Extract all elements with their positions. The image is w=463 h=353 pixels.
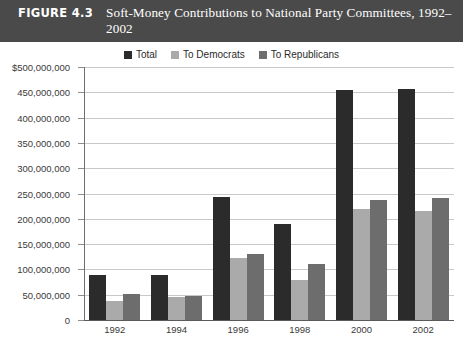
legend-label-to-republicans: To Republicans bbox=[271, 49, 339, 60]
bar-2000-series-2 bbox=[353, 209, 370, 320]
y-axis-tick-label: 450,000,000 bbox=[17, 87, 70, 98]
legend-item-total: Total bbox=[124, 49, 157, 60]
x-axis-tick-label: 1994 bbox=[166, 324, 187, 335]
x-axis-tick-label: 2000 bbox=[351, 324, 372, 335]
bar-1998-series-1 bbox=[274, 224, 291, 320]
legend-swatch-to-republicans bbox=[259, 51, 267, 59]
bar-group-1994 bbox=[151, 67, 202, 320]
y-axis: 050,000,000100,000,000150,000,000200,000… bbox=[0, 62, 78, 353]
bars-layer bbox=[84, 62, 454, 321]
bar-1996-series-2 bbox=[230, 258, 247, 320]
y-axis-tick-label: 400,000,000 bbox=[17, 112, 70, 123]
figure-title-bar: FIGURE 4.3 Soft-Money Contributions to N… bbox=[0, 0, 463, 42]
bar-2002-series-2 bbox=[415, 211, 432, 320]
chart-legend: Total To Democrats To Republicans bbox=[0, 49, 463, 60]
x-axis: 199219941996199820002002 bbox=[84, 324, 454, 344]
bar-2002-series-3 bbox=[432, 198, 449, 320]
bar-1992-series-2 bbox=[106, 301, 123, 320]
y-axis-tick-label: 150,000,000 bbox=[17, 239, 70, 250]
y-axis-tick-label: 50,000,000 bbox=[22, 289, 70, 300]
bar-1998-series-2 bbox=[291, 280, 308, 320]
bar-group-1998 bbox=[274, 67, 325, 320]
bar-1998-series-3 bbox=[308, 264, 325, 320]
y-axis-tick-label: 0 bbox=[65, 315, 70, 326]
y-axis-tick-label: 300,000,000 bbox=[17, 163, 70, 174]
x-axis-tick-label: 1996 bbox=[228, 324, 249, 335]
bar-2000-series-1 bbox=[336, 90, 353, 320]
bar-2002-series-1 bbox=[398, 89, 415, 320]
bar-1994-series-1 bbox=[151, 275, 168, 320]
bar-1992-series-3 bbox=[123, 294, 140, 320]
bar-1996-series-1 bbox=[213, 197, 230, 320]
legend-label-total: Total bbox=[136, 49, 157, 60]
legend-item-to-republicans: To Republicans bbox=[259, 49, 339, 60]
bar-group-1996 bbox=[213, 67, 264, 320]
bar-1994-series-3 bbox=[185, 296, 202, 320]
bar-1992-series-1 bbox=[89, 275, 106, 320]
bar-1996-series-3 bbox=[247, 254, 264, 320]
y-axis-tick-label: 200,000,000 bbox=[17, 213, 70, 224]
legend-label-to-democrats: To Democrats bbox=[183, 49, 245, 60]
legend-swatch-to-democrats bbox=[171, 51, 179, 59]
page-title: Soft-Money Contributions to National Par… bbox=[106, 5, 455, 36]
bar-group-2000 bbox=[336, 67, 387, 320]
x-axis-tick-label: 1998 bbox=[289, 324, 310, 335]
bar-chart: 050,000,000100,000,000150,000,000200,000… bbox=[0, 62, 463, 353]
x-axis-tick-label: 1992 bbox=[104, 324, 125, 335]
legend-swatch-total bbox=[124, 51, 132, 59]
y-axis-tick-label: 250,000,000 bbox=[17, 188, 70, 199]
bar-group-1992 bbox=[89, 67, 140, 320]
y-axis-tick-label: $500,000,000 bbox=[12, 62, 70, 73]
y-axis-tick-label: 100,000,000 bbox=[17, 264, 70, 275]
x-axis-tick-label: 2002 bbox=[413, 324, 434, 335]
y-axis-tick-label: 350,000,000 bbox=[17, 137, 70, 148]
bar-2000-series-3 bbox=[370, 200, 387, 320]
bar-1994-series-2 bbox=[168, 297, 185, 320]
bar-group-2002 bbox=[398, 67, 449, 320]
figure-number-label: FIGURE 4.3 bbox=[18, 5, 93, 20]
legend-item-to-democrats: To Democrats bbox=[171, 49, 245, 60]
